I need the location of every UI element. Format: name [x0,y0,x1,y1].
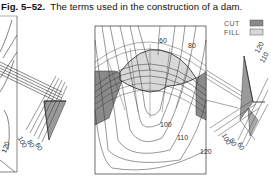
contour-label-120: 120 [200,148,212,155]
section-label-80-right: 80 [228,137,238,147]
section-label-60-left: 60 [34,141,44,151]
legend-swatch-fill [250,29,263,35]
left-map-panel [0,16,62,172]
contour-label-110: 110 [177,134,188,141]
contour-label-120-left: 120 [0,140,11,153]
contour-label-60: 60 [159,37,167,44]
contour-label-80: 80 [188,42,196,49]
legend-label-cut: CUT [224,20,240,27]
contour-label-100: 100 [160,121,172,128]
right-cross-section [206,56,268,146]
dam-construction-diagram: 120 100 80 60 [0,0,271,176]
legend-swatch-cut [250,20,263,26]
legend: CUT FILL [224,20,263,36]
section-label-60-right: 60 [236,141,246,151]
legend-label-fill: FILL [224,29,240,36]
left-cross-section [26,76,67,142]
